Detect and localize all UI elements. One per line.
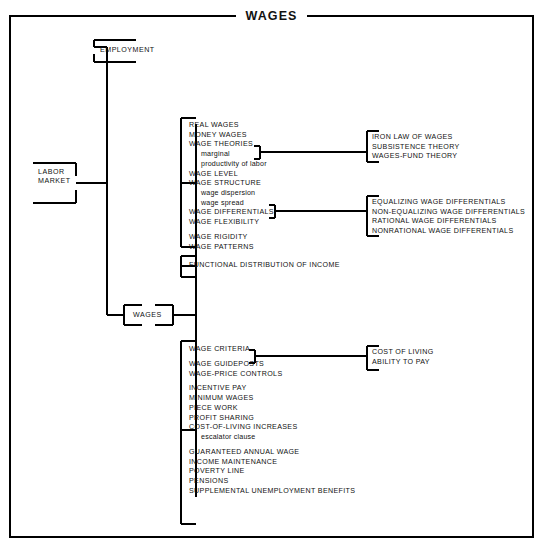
group-wage-criteria: COST OF LIVINGABILITY TO PAY xyxy=(372,348,434,367)
wage-theories-item[interactable]: SUBSISTENCE THEORY xyxy=(372,143,460,153)
wage-theories-item[interactable]: WAGES-FUND THEORY xyxy=(372,152,460,162)
wage-differentials-item[interactable]: NON-EQUALIZING WAGE DIFFERENTIALS xyxy=(372,208,525,218)
wage-concepts-item[interactable]: wage dispersion xyxy=(189,189,274,199)
wage-differentials-item[interactable]: EQUALIZING WAGE DIFFERENTIALS xyxy=(372,198,525,208)
group-wage-theories: IRON LAW OF WAGESSUBSISTENCE THEORYWAGES… xyxy=(372,133,460,162)
wage-concepts-item[interactable]: wage spread xyxy=(189,199,274,209)
wage-concepts-item[interactable]: WAGE PATTERNS xyxy=(189,243,274,253)
wage-policy-item[interactable]: PENSIONS xyxy=(189,477,355,487)
wage-theories-item[interactable]: IRON LAW OF WAGES xyxy=(372,133,460,143)
wage-policy-item[interactable]: PIECE WORK xyxy=(189,404,355,414)
wage-policy-item[interactable]: INCOME MAINTENANCE xyxy=(189,458,355,468)
wage-concepts-item[interactable]: WAGE DIFFERENTIALS xyxy=(189,208,274,218)
group-wage-concepts: REAL WAGESMONEY WAGESWAGE THEORIESmargin… xyxy=(189,121,274,252)
functional-distribution-item[interactable]: FUNCTIONAL DISTRIBUTION OF INCOME xyxy=(189,261,340,271)
wage-policy-item[interactable]: WAGE GUIDEPOSTS xyxy=(189,360,355,370)
wage-policy-item[interactable]: MINIMUM WAGES xyxy=(189,394,355,404)
wage-policy-item[interactable]: INCENTIVE PAY xyxy=(189,384,355,394)
wage-policy-item[interactable]: PROFIT SHARING xyxy=(189,414,355,424)
group-wage-differentials: EQUALIZING WAGE DIFFERENTIALSNON-EQUALIZ… xyxy=(372,198,525,237)
group-functional-distribution: FUNCTIONAL DISTRIBUTION OF INCOME xyxy=(189,261,340,271)
wage-concepts-item[interactable]: WAGE LEVEL xyxy=(189,170,274,180)
wage-concepts-item[interactable]: WAGE STRUCTURE xyxy=(189,179,274,189)
wage-concepts-item[interactable]: REAL WAGES xyxy=(189,121,274,131)
wage-concepts-item[interactable]: marginal xyxy=(189,150,274,160)
wage-policy-item[interactable]: POVERTY LINE xyxy=(189,467,355,477)
wage-differentials-item[interactable]: RATIONAL WAGE DIFFERENTIALS xyxy=(372,217,525,227)
node-employment[interactable]: EMPLOYMENT xyxy=(100,46,155,56)
wage-policy-item[interactable]: COST-OF-LIVING INCREASES xyxy=(189,423,355,433)
node-wages[interactable]: WAGES xyxy=(133,311,162,321)
wage-concepts-item[interactable]: WAGE THEORIES xyxy=(189,140,274,150)
wage-concepts-item[interactable]: productivity of labor xyxy=(189,160,274,170)
node-labor-market-line1: LABOR xyxy=(38,168,71,177)
group-wage-policy: WAGE CRITERIAWAGE GUIDEPOSTSWAGE-PRICE C… xyxy=(189,345,355,496)
wage-criteria-item[interactable]: COST OF LIVING xyxy=(372,348,434,358)
wage-policy-item[interactable]: WAGE-PRICE CONTROLS xyxy=(189,370,355,380)
wage-policy-item[interactable]: SUPPLEMENTAL UNEMPLOYMENT BENEFITS xyxy=(189,487,355,497)
node-labor-market[interactable]: LABOR MARKET xyxy=(38,168,71,186)
wage-concepts-item[interactable]: MONEY WAGES xyxy=(189,131,274,141)
wage-policy-item[interactable]: escalator clause xyxy=(189,433,355,443)
wage-policy-item[interactable]: WAGE CRITERIA xyxy=(189,345,355,355)
wage-criteria-item[interactable]: ABILITY TO PAY xyxy=(372,358,434,368)
wage-concepts-item[interactable]: WAGE RIGIDITY xyxy=(189,233,274,243)
node-labor-market-line2: MARKET xyxy=(38,177,71,186)
wage-concepts-item[interactable]: WAGE FLEXIBILITY xyxy=(189,218,274,228)
wage-policy-item[interactable]: GUARANTEED ANNUAL WAGE xyxy=(189,448,355,458)
wage-differentials-item[interactable]: NONRATIONAL WAGE DIFFERENTIALS xyxy=(372,227,525,237)
